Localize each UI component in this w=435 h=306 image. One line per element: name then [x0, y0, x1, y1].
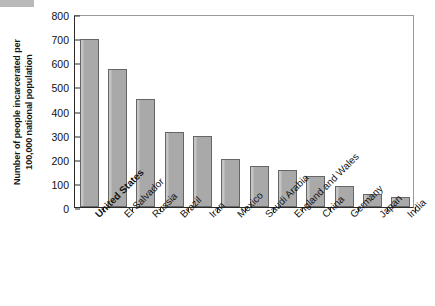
y-tick-label: 300 [51, 131, 75, 143]
y-tick-label: 600 [51, 58, 75, 70]
y-tick-label: 700 [51, 34, 75, 46]
y-tick-label: 800 [51, 10, 75, 22]
bar-chart: Number of people incarcerated per 100,00… [0, 0, 435, 306]
x-axis-labels: United StatesEl SalvadorRussiaBrazilIran… [74, 212, 414, 306]
y-tick-label: 500 [51, 82, 75, 94]
bar [221, 159, 240, 207]
y-tick-label: 100 [51, 179, 75, 191]
scan-artifact [0, 0, 34, 7]
y-tick-label: 400 [51, 107, 75, 119]
y-tick-label: 200 [51, 155, 75, 167]
y-axis-title: Number of people incarcerated per 100,00… [11, 10, 51, 215]
bar [80, 39, 99, 207]
y-tick-mark [75, 209, 80, 210]
